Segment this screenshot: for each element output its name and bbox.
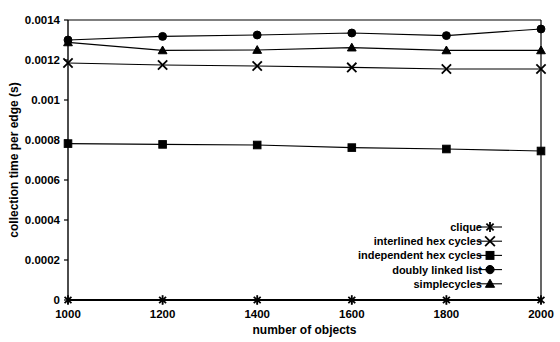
- x-axis-ticks: 100012001400160018002000: [55, 300, 554, 320]
- data-point-circle: [486, 265, 494, 273]
- x-axis-title: number of objects: [252, 323, 356, 337]
- x-tick-label: 1600: [339, 308, 365, 320]
- legend-item-clique[interactable]: clique: [450, 221, 502, 233]
- data-point-circle: [442, 32, 450, 40]
- x-tick-label: 1400: [244, 308, 270, 320]
- series-simplecycles: [64, 38, 546, 54]
- y-tick-label: 0.0006: [25, 174, 60, 186]
- y-axis-ticks: 00.00020.00040.00060.00080.0010.00120.00…: [25, 14, 68, 306]
- x-tick-label: 2000: [528, 308, 554, 320]
- data-point-square: [159, 141, 167, 149]
- data-point-square: [348, 144, 356, 152]
- chart-legend: cliqueinterlined hex cyclesindependent h…: [358, 221, 502, 290]
- y-tick-label: 0.001: [31, 94, 60, 106]
- y-tick-label: 0.0014: [25, 14, 61, 26]
- y-tick-label: 0.0012: [25, 54, 60, 66]
- x-tick-label: 1000: [55, 308, 81, 320]
- y-tick-label: 0.0002: [25, 254, 60, 266]
- chart-canvas: 00.00020.00040.00060.00080.0010.00120.00…: [0, 0, 560, 342]
- data-point-triangle: [347, 43, 356, 51]
- data-point-square: [253, 141, 261, 149]
- legend-label: simplecycles: [414, 278, 483, 290]
- legend-label: independent hex cycles: [358, 249, 482, 261]
- series-path: [68, 63, 541, 69]
- y-tick-label: 0.0004: [25, 214, 61, 226]
- data-point-square: [537, 147, 545, 155]
- legend-label: doubly linked list: [392, 264, 482, 276]
- x-tick-label: 1200: [150, 308, 176, 320]
- series-path: [68, 29, 541, 40]
- data-point-square: [486, 251, 494, 259]
- legend-label: clique: [450, 221, 482, 233]
- series-interlined-hex-cycles: [63, 58, 545, 73]
- data-point-circle: [537, 25, 545, 33]
- data-point-circle: [348, 29, 356, 37]
- series-independent-hex-cycles: [64, 140, 545, 155]
- y-tick-label: 0: [54, 294, 60, 306]
- series-clique: [65, 295, 545, 305]
- y-tick-label: 0.0008: [25, 134, 61, 146]
- legend-item-doubly-linked-list[interactable]: doubly linked list: [392, 264, 502, 276]
- legend-item-independent-hex-cycles[interactable]: independent hex cycles: [358, 249, 502, 261]
- data-point-circle: [159, 32, 167, 40]
- legend-item-simplecycles[interactable]: simplecycles: [414, 278, 503, 290]
- data-point-square: [443, 145, 451, 153]
- chart-figure: 00.00020.00040.00060.00080.0010.00120.00…: [0, 0, 560, 342]
- x-tick-label: 1800: [434, 308, 460, 320]
- legend-item-interlined-hex-cycles[interactable]: interlined hex cycles: [374, 235, 502, 247]
- series-path: [68, 144, 541, 151]
- series-path: [68, 42, 541, 50]
- data-point-square: [64, 140, 72, 148]
- data-point-circle: [253, 31, 261, 39]
- series-doubly-linked-list: [64, 25, 545, 44]
- y-axis-title: collection time per edge (s): [7, 82, 21, 237]
- legend-label: interlined hex cycles: [374, 235, 482, 247]
